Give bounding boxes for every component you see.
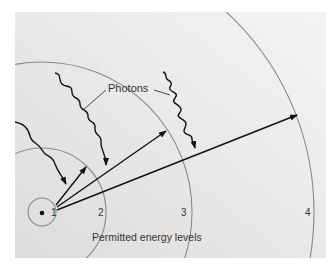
level-4-label: 4 bbox=[305, 207, 311, 218]
energy-level-diagram: Photons 1 2 3 4 Permitted energy levels bbox=[15, 12, 326, 258]
photons-label: Photons bbox=[108, 82, 149, 94]
nucleus-dot bbox=[40, 211, 45, 216]
diagram-canvas: Photons 1 2 3 4 Permitted energy levels bbox=[15, 12, 326, 258]
level-2-label: 2 bbox=[98, 207, 104, 218]
level-3-label: 3 bbox=[181, 207, 187, 218]
permitted-energy-levels-label: Permitted energy levels bbox=[92, 231, 202, 243]
level-1-label: 1 bbox=[51, 207, 57, 218]
